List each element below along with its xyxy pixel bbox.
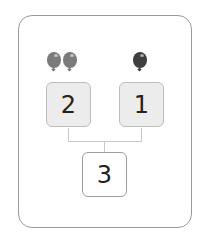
part-box-left: 2	[46, 82, 91, 127]
balloon-icon	[63, 52, 77, 68]
whole-value: 3	[97, 161, 112, 189]
part-value-right: 1	[134, 91, 149, 119]
balloon-icon	[47, 52, 61, 68]
connector-down	[104, 141, 105, 152]
whole-box: 3	[82, 152, 127, 197]
part-value-left: 2	[61, 91, 76, 119]
balloon-icon	[133, 52, 147, 68]
connector-left	[68, 128, 69, 141]
part-box-right: 1	[119, 82, 164, 127]
connector-horizontal	[68, 141, 142, 142]
connector-right	[141, 128, 142, 141]
